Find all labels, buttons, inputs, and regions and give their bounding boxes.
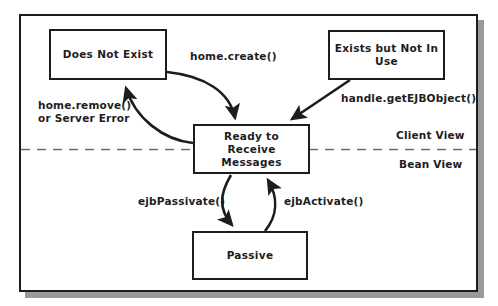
transition-label-ejb-passivate: ejbPassivate() [138,195,225,208]
state-label: Passive [227,249,274,262]
diagram-canvas: Does Not Exist Exists but Not In Use Rea… [0,0,498,306]
partition-label-bean-view: Bean View [399,158,463,171]
state-label: Ready to Receive Messages [221,130,281,169]
transition-label-home-remove: home.remove() or Server Error [38,99,131,125]
state-exists-but-not-in-use[interactable]: Exists but Not In Use [328,30,445,80]
partition-label-client-view: Client View [396,129,465,142]
state-label: Exists but Not In Use [330,42,443,68]
transition-label-handle-get-ejbobject: handle.getEJBObject() [341,92,476,105]
transition-label-home-create: home.create() [190,50,277,63]
transition-label-ejb-activate: ejbActivate() [284,195,363,208]
state-label: Does Not Exist [63,48,154,61]
state-does-not-exist[interactable]: Does Not Exist [49,29,167,80]
state-passive[interactable]: Passive [192,231,308,280]
state-ready-to-receive-messages[interactable]: Ready to Receive Messages [193,124,310,174]
